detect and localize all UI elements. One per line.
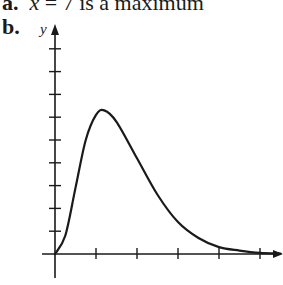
chart: y <box>0 0 283 285</box>
axes <box>42 30 278 278</box>
y-axis-label: y <box>38 21 47 37</box>
y-axis-arrow-icon <box>51 24 59 35</box>
curve-line <box>55 110 281 254</box>
